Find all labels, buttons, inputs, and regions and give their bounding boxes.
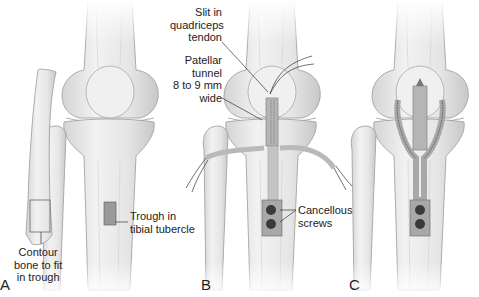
panel-letter-b: B: [201, 276, 211, 293]
knee-surgery-illustration: Contour bone to fit in trough Trough in …: [0, 0, 479, 297]
panel-c-knee: [351, 0, 468, 290]
label-trough: Trough in tibial tubercle: [130, 210, 195, 235]
illustration-canvas: [0, 0, 479, 297]
panel-b-knee: [186, 0, 352, 290]
label-contour-bone: Contour bone to fit in trough: [14, 246, 62, 284]
trough-graphic: [104, 202, 116, 225]
panel-letter-c: C: [349, 276, 360, 293]
label-slit-quadriceps: Slit in quadriceps tendon: [170, 6, 222, 44]
label-patellar-tunnel: Patellar tunnel 8 to 9 mm wide: [166, 54, 222, 104]
panel-letter-a: A: [0, 276, 10, 293]
label-cancellous-screws: Cancellous screws: [298, 204, 352, 229]
